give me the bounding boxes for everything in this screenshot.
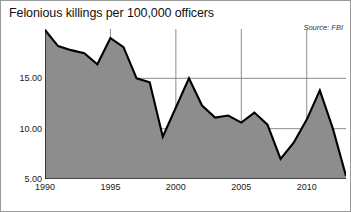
x-axis-labels: 19901995200020052010 (1, 1, 351, 212)
x-axis-tick-label: 2005 (231, 182, 251, 192)
x-axis-tick-label: 1990 (35, 182, 55, 192)
chart-figure: Felonious killings per 100,000 officers … (0, 0, 351, 212)
x-axis-tick-label: 1995 (100, 182, 120, 192)
x-axis-tick-label: 2010 (297, 182, 317, 192)
x-axis-tick-label: 2000 (166, 182, 186, 192)
